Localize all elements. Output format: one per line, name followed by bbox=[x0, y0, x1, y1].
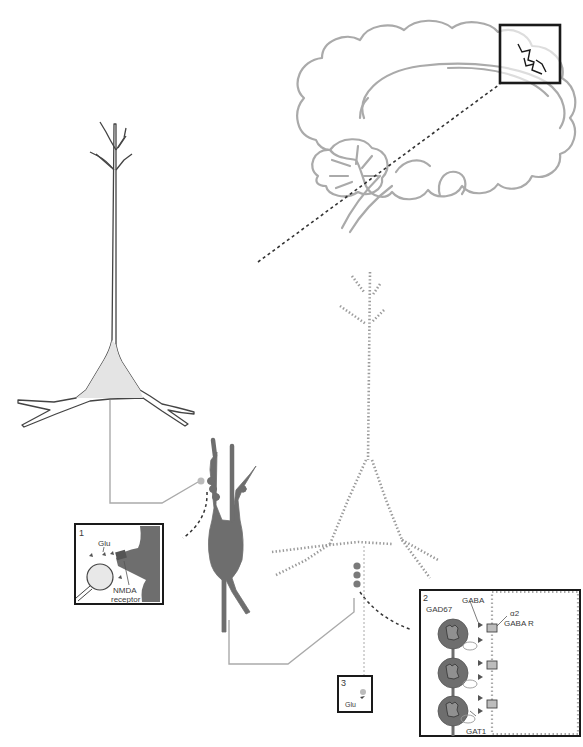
inset2-gabar-label: GABA R bbox=[504, 619, 534, 628]
axon-cartridge-boutons bbox=[353, 562, 360, 587]
pyramidal-axon-left bbox=[110, 400, 198, 503]
connector-to-inset2 bbox=[360, 592, 412, 630]
inset-2-gaba-synapse: 2 GAD67 GABA α2 GABA R GAT1 bbox=[420, 590, 580, 736]
inset1-nmda-label: NMDA bbox=[113, 586, 137, 595]
caption-strip bbox=[0, 737, 583, 747]
pv-interneuron-dark bbox=[208, 440, 257, 632]
inset2-gat1-label: GAT1 bbox=[466, 727, 487, 736]
inset2-number: 2 bbox=[423, 593, 428, 603]
figure-canvas: 1 Glu NMDA receptor bbox=[0, 0, 583, 747]
inset3-glu-label: Glu bbox=[345, 701, 356, 708]
connector-to-inset1 bbox=[183, 492, 207, 538]
projection-dotted-line bbox=[258, 84, 500, 262]
inset2-gaba-label: GABA bbox=[462, 596, 485, 605]
inset2-alpha2-label: α2 bbox=[510, 609, 520, 618]
inset-1-nmda-synapse: 1 Glu NMDA receptor bbox=[75, 524, 163, 604]
pyramidal-neuron-dotted bbox=[272, 272, 438, 578]
prefrontal-highlight-box bbox=[500, 25, 560, 83]
inset2-gad67-label: GAD67 bbox=[426, 605, 453, 614]
inset-3-glu-release: 3 Glu bbox=[338, 676, 372, 712]
pyramidal-neuron-left bbox=[18, 122, 194, 427]
axon-terminal-bouton bbox=[198, 478, 205, 485]
inset1-glu-label: Glu bbox=[98, 539, 110, 548]
inset3-number: 3 bbox=[341, 678, 346, 688]
inset1-receptor-label: receptor bbox=[111, 595, 141, 604]
inset1-number: 1 bbox=[79, 528, 84, 538]
